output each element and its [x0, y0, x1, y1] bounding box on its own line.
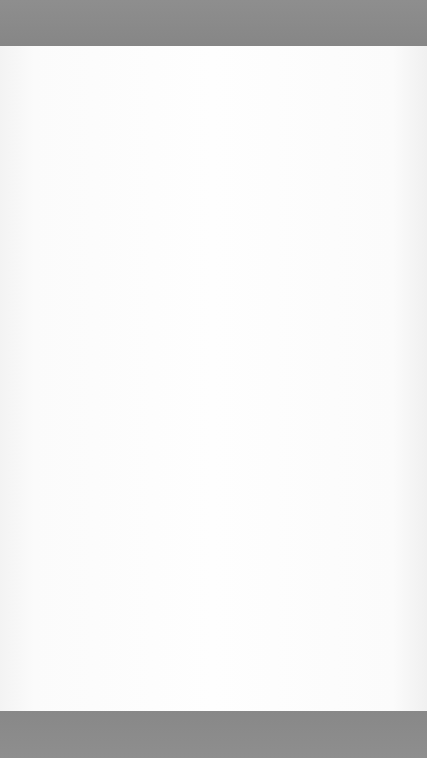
bottom-pattern-band — [0, 711, 427, 758]
top-pattern-band — [0, 0, 427, 47]
lined-paper — [0, 46, 427, 712]
